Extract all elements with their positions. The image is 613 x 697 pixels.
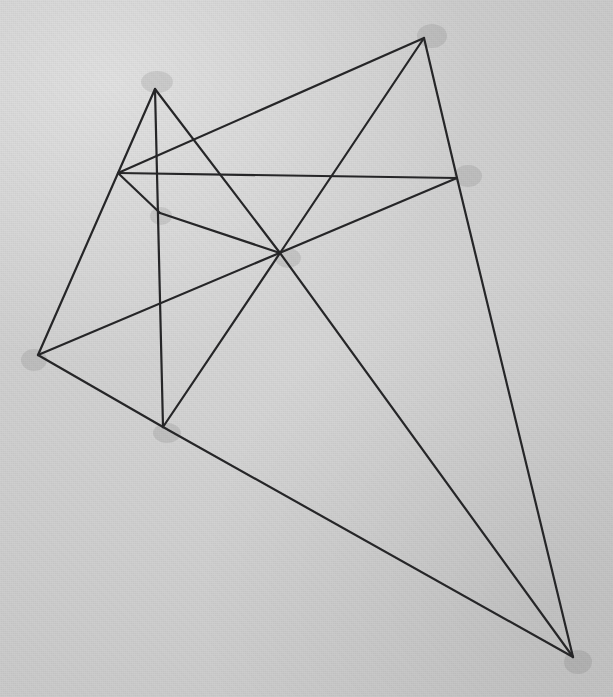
edge-lower-left-to-far-right bbox=[163, 427, 573, 657]
edge-upper-right-to-right-upper bbox=[424, 38, 457, 178]
edge-right-upper-to-far-left bbox=[38, 178, 457, 355]
edge-horizontal-span bbox=[118, 173, 457, 178]
smudge-lower-left bbox=[153, 423, 181, 443]
smudge-apex-upper-left bbox=[141, 71, 173, 93]
drawing-canvas bbox=[0, 0, 613, 697]
edge-center-to-lower-left bbox=[163, 253, 280, 427]
edge-layer bbox=[38, 38, 573, 657]
edge-center-to-far-right bbox=[280, 253, 573, 657]
edge-apex-to-far-left bbox=[38, 89, 155, 355]
edge-far-left-to-lower-left bbox=[38, 355, 163, 427]
edge-right-upper-to-far-right bbox=[457, 178, 573, 657]
edge-apex-to-lower-left bbox=[155, 89, 163, 427]
vertex-smudge-layer bbox=[21, 24, 592, 674]
edge-apex-to-node-center bbox=[155, 89, 280, 253]
edge-left-upper-to-left-inner bbox=[118, 173, 160, 213]
edge-left-inner-to-center bbox=[160, 213, 280, 253]
line-figure-svg bbox=[0, 0, 613, 697]
smudge-apex-upper-right bbox=[417, 24, 447, 48]
